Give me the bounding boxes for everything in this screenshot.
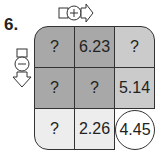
- answer-circle[interactable]: 4.45: [115, 110, 155, 150]
- cell-r2c2[interactable]: ?: [74, 67, 115, 109]
- cell-r2c3[interactable]: 5.14: [114, 67, 155, 109]
- cell-r1c3[interactable]: ?: [114, 26, 155, 68]
- minus-arrow-down-icon: [12, 48, 32, 88]
- cell-r2c1[interactable]: ?: [34, 67, 75, 109]
- cell-r3c1[interactable]: ?: [34, 108, 75, 150]
- puzzle-grid: ? 6.23 ? ? ? 5.14 ? 2.26 4.45: [34, 26, 155, 150]
- cell-r3c2[interactable]: 2.26: [74, 108, 115, 150]
- cell-r1c1[interactable]: ?: [34, 26, 75, 68]
- plus-arrow-right-icon: [58, 3, 94, 23]
- problem-number: 6.: [4, 15, 18, 35]
- cell-r1c2[interactable]: 6.23: [74, 26, 115, 68]
